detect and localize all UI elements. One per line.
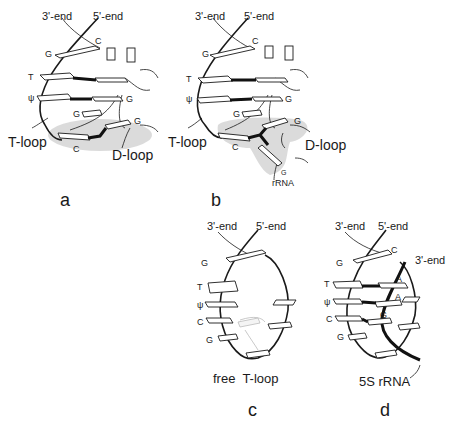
base-g-mid-b: [242, 110, 262, 117]
label-psi-b: ψ: [186, 94, 192, 104]
base-g-bottom-c: [218, 334, 238, 341]
base-c-c: [206, 318, 233, 323]
base-g-top-d: [353, 250, 392, 263]
caption-free-t-loop-c: free T-loop: [213, 371, 279, 386]
label-g-mid-b: G: [233, 109, 240, 119]
label-psi-a: ψ: [28, 93, 34, 103]
label-g-rrna-b: G: [281, 169, 286, 176]
label-psi-d: ψ: [324, 297, 330, 307]
label-t-b: T: [186, 74, 192, 84]
panel-c: 3'-end 5'-end G T ψ C G free T-loop c: [197, 220, 296, 420]
label-c-d: C: [326, 314, 333, 324]
label-g-dloop-b: G: [294, 116, 301, 126]
label-t-d: T: [324, 279, 330, 289]
base-stack-1-b: [265, 46, 273, 58]
label-5prime-c: 5'-end: [256, 220, 286, 232]
label-t-loop-b: T-loop: [168, 134, 207, 150]
label-g-top-c: G: [201, 258, 208, 268]
label-g-bottom-d: G: [337, 332, 344, 342]
label-g-top-b: G: [202, 49, 209, 59]
trna-diagram: 3'-end 5'-end G C T ψ G G G C T-loop D-l…: [0, 0, 455, 427]
panel-b: 3'-end 5'-end G C T ψ G G G C G T-loop D…: [168, 10, 346, 210]
panel-label-a: a: [60, 190, 71, 210]
label-5prime-a: 5'-end: [93, 10, 123, 22]
label-c-top-d: C: [391, 245, 398, 255]
label-t-a: T: [28, 72, 34, 82]
base-g-top-a: [55, 46, 100, 58]
base-t-d: [333, 281, 363, 288]
label-c-top-b: C: [252, 36, 259, 46]
base-stack-1-a: [107, 48, 115, 60]
panel-d: 3'-end 5'-end 3'-end G C T ψ C G A A G 5…: [324, 220, 445, 420]
panel-a: 3'-end 5'-end G C T ψ G G G C T-loop D-l…: [8, 10, 158, 210]
pointer-3prime-d: [345, 232, 385, 254]
label-d-loop-a: D-loop: [112, 147, 153, 163]
base-c-d: [335, 316, 363, 321]
base-a1-d: [378, 283, 408, 288]
base-psi-c: [205, 302, 238, 307]
base-psi-pair-a: [92, 97, 123, 101]
base-psi-b: [197, 96, 232, 103]
label-g-right-d: G: [380, 310, 387, 320]
base-right-2-c: [268, 322, 292, 329]
label-t-loop-a: T-loop: [8, 134, 47, 150]
base-stack-2-a: [127, 48, 135, 62]
panel-label-c: c: [248, 400, 257, 420]
label-g-dloop-a: G: [134, 116, 141, 126]
panel-label-b: b: [211, 190, 221, 210]
base-g-top-b: [210, 46, 255, 58]
label-rrna-3prime-d: 3'-end: [415, 254, 445, 266]
t-loop-pointer-b: [188, 118, 202, 128]
base-t-a: [40, 73, 75, 80]
base-stack-2-b: [285, 46, 293, 60]
label-5s-rrna-d: 5S rRNA: [359, 374, 411, 389]
rrna-pointer-d: [410, 365, 420, 378]
label-a1-d: A: [396, 274, 402, 284]
label-g-right-a: G: [126, 94, 133, 104]
base-right-1-d: [402, 297, 420, 302]
base-psi-d: [333, 299, 363, 304]
pointer-3prime-c: [218, 232, 250, 255]
label-3prime-d: 3'-end: [335, 220, 365, 232]
base-psi-pair-b: [252, 97, 283, 101]
base-right-2-d: [398, 323, 420, 330]
label-g-bottom-c: G: [206, 335, 213, 345]
base-g-top-c: [226, 250, 266, 262]
label-c-top-a: C: [95, 36, 102, 46]
base-bottom-d: [375, 350, 397, 358]
label-c-c: C: [197, 317, 204, 327]
label-c-bottom-a: C: [73, 144, 80, 154]
base-right-1-c: [273, 300, 296, 305]
label-t-c: T: [197, 282, 203, 292]
label-c-bottom-b: C: [232, 142, 239, 152]
label-g-top-d: G: [336, 258, 343, 268]
label-psi-c: ψ: [197, 300, 203, 310]
label-5prime-d: 5'-end: [378, 220, 408, 232]
base-t-pair-a: [95, 78, 128, 82]
label-3prime-a: 3'-end: [42, 10, 72, 22]
label-g-mid-a: G: [73, 109, 80, 119]
panel-label-d: d: [380, 400, 390, 420]
label-3prime-c: 3'-end: [207, 220, 237, 232]
label-d-loop-b: D-loop: [305, 137, 346, 153]
label-rrna-b: rRNA: [272, 178, 294, 188]
base-t-c: [208, 281, 238, 293]
label-3prime-b: 3'-end: [195, 10, 225, 22]
base-bottom-c: [246, 350, 270, 358]
label-g-right-b: G: [285, 94, 292, 104]
label-5prime-b: 5'-end: [244, 10, 274, 22]
base-g-mid-a: [82, 110, 102, 117]
label-a2-d: A: [395, 292, 401, 302]
base-t-pair-b: [255, 78, 288, 82]
label-g-top-a: G: [45, 49, 52, 59]
